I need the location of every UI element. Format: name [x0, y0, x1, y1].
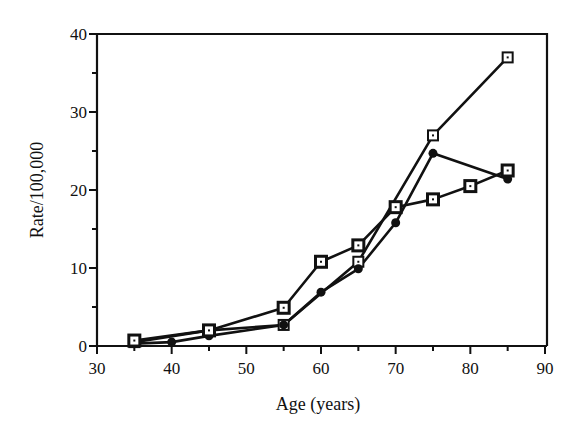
square-marker-dot [507, 56, 509, 58]
plot-frame [89, 34, 547, 346]
circle-marker [354, 264, 363, 273]
circle-marker [429, 149, 438, 158]
y-tick-label: 20 [70, 181, 87, 200]
square-marker-dot [283, 307, 285, 309]
square-marker-dot [507, 170, 509, 172]
series-line [134, 57, 507, 342]
y-tick-labels: 010203040 [70, 25, 87, 356]
square-marker-dot [133, 340, 135, 342]
square-marker-dot [357, 261, 359, 263]
x-tick-label: 50 [238, 359, 255, 378]
y-tick-label: 10 [70, 259, 87, 278]
circle-marker [167, 338, 176, 347]
x-tick-label: 70 [387, 359, 404, 378]
square-marker-dot [395, 206, 397, 208]
x-tick-label: 60 [313, 359, 330, 378]
series-lines [134, 57, 507, 343]
x-tick-labels: 30405060708090 [89, 359, 554, 378]
circle-marker [279, 320, 288, 329]
y-tick-label: 30 [70, 103, 87, 122]
square-marker-dot [469, 185, 471, 187]
axis-ticks [89, 34, 545, 354]
y-axis-title: Rate/100,000 [27, 142, 47, 239]
x-tick-label: 80 [462, 359, 479, 378]
y-tick-label: 0 [79, 337, 88, 356]
circle-marker [391, 218, 400, 227]
square-marker-dot [320, 261, 322, 263]
x-tick-label: 30 [89, 359, 106, 378]
square-marker-dot [208, 329, 210, 331]
x-axis-title: Age (years) [276, 394, 360, 415]
circle-marker [317, 288, 326, 297]
square-marker-dot [432, 198, 434, 200]
line-chart: 30405060708090 010203040 Age (years) Rat… [0, 0, 572, 433]
series-markers [129, 52, 513, 348]
y-tick-label: 40 [70, 25, 87, 44]
square-marker-dot [357, 244, 359, 246]
series-line [134, 153, 507, 343]
x-tick-label: 40 [163, 359, 180, 378]
axis-box [97, 34, 547, 346]
x-tick-label: 90 [537, 359, 554, 378]
square-marker-dot [432, 134, 434, 136]
